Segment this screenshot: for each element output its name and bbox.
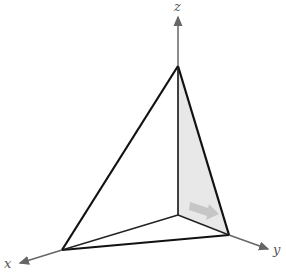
x-axis-label: x [4, 256, 12, 271]
z-axis-label: z [173, 0, 181, 14]
edge-apex-x [62, 66, 178, 250]
y-axis [229, 235, 268, 249]
y-axis-label: y [272, 242, 281, 257]
x-axis [20, 250, 62, 263]
tetrahedron-diagram: z x y [0, 0, 286, 276]
